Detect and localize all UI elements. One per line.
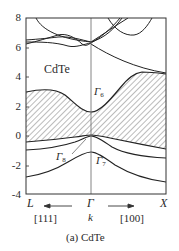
- figure-caption: (a) CdTe: [66, 232, 105, 243]
- upper-band-a: [26, 18, 128, 42]
- arrow-right: [108, 204, 134, 208]
- y-tick-4: 4: [3, 71, 21, 82]
- y-tick-2: 2: [3, 101, 21, 112]
- x-label-L: L: [27, 198, 34, 209]
- y-tick-minus2: -2: [3, 160, 21, 171]
- gamma8-sub: 8: [62, 156, 66, 164]
- gamma8-label: Γ8: [56, 151, 66, 166]
- gamma7-sub: 7: [102, 160, 106, 168]
- x-label-X: X: [160, 198, 167, 209]
- gamma6-sub: 6: [100, 91, 104, 99]
- upper-band-dip: [108, 18, 152, 35]
- y-tick-8: 8: [3, 12, 21, 23]
- material-label: CdTe: [44, 64, 70, 75]
- y-tick-6: 6: [3, 42, 21, 53]
- gamma6-label: Γ6: [94, 86, 104, 101]
- k-label: k: [88, 212, 93, 223]
- gamma8-pointer: [72, 139, 86, 154]
- gamma7-label: Γ7: [96, 155, 106, 170]
- upper-band-b: [26, 18, 120, 45]
- y-tick-0: 0: [3, 130, 21, 141]
- arrow-left: [44, 204, 72, 208]
- direction-111: [111]: [34, 213, 57, 224]
- y-tick-minus4: -4: [3, 189, 21, 200]
- x-label-gamma: Γ: [87, 198, 94, 209]
- direction-100: [100]: [120, 213, 144, 224]
- upper-band-descending: [91, 44, 166, 73]
